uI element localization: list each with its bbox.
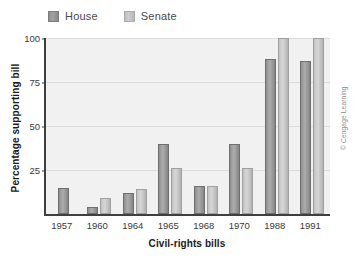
x-tick-label-1964: 1964 (122, 220, 143, 231)
plot-area: 255075100 (46, 38, 330, 214)
bar-house-1965 (158, 144, 169, 214)
y-axis-title: Percentage supporting bill (10, 33, 24, 223)
plot-frame: 255075100 (44, 38, 330, 216)
copyright-credit: © Cengage Learning (340, 86, 347, 150)
legend-swatch-senate-icon (124, 11, 135, 22)
bar-group-1991 (295, 38, 331, 214)
bar-senate-1988 (278, 38, 289, 214)
bar-house-1968 (194, 186, 205, 214)
y-tick-label-50: 50 (29, 121, 46, 132)
legend-label-house: House (65, 10, 98, 22)
bar-house-1960 (87, 207, 98, 214)
bar-senate-1964 (136, 189, 147, 214)
x-tick-label-1988: 1988 (264, 220, 285, 231)
x-tick-label-1968: 1968 (193, 220, 214, 231)
bar-house-1970 (229, 144, 240, 214)
bar-group-1968 (188, 38, 224, 214)
civil-rights-bills-bar-chart: House Senate Percentage supporting bill … (0, 0, 357, 258)
y-tick-label-25: 25 (29, 165, 46, 176)
legend-swatch-house-icon (48, 11, 59, 22)
bar-house-1988 (265, 59, 276, 214)
bar-senate-1965 (171, 168, 182, 214)
x-tick-label-1991: 1991 (300, 220, 321, 231)
bar-senate-1960 (100, 198, 111, 214)
legend-label-senate: Senate (141, 10, 177, 22)
bar-group-1964 (117, 38, 153, 214)
x-tick-label-1957: 1957 (51, 220, 72, 231)
bar-house-1957 (58, 188, 69, 214)
bar-house-1964 (123, 193, 134, 214)
bar-group-1965 (153, 38, 189, 214)
chart-legend: House Senate (48, 7, 177, 25)
bar-senate-1991 (313, 38, 324, 214)
bar-group-1970 (224, 38, 260, 214)
bar-group-1988 (259, 38, 295, 214)
bar-senate-1968 (207, 186, 218, 214)
x-tick-label-1965: 1965 (158, 220, 179, 231)
x-tick-label-1960: 1960 (87, 220, 108, 231)
bar-senate-1970 (242, 168, 253, 214)
legend-entry-senate: Senate (124, 10, 177, 22)
bar-group-1960 (82, 38, 118, 214)
legend-entry-house: House (48, 10, 98, 22)
bar-group-1957 (46, 38, 82, 214)
x-tick-label-1970: 1970 (229, 220, 250, 231)
y-tick-label-100: 100 (24, 33, 46, 44)
bar-house-1991 (300, 61, 311, 214)
x-axis-title: Civil-rights bills (44, 238, 330, 249)
y-tick-label-75: 75 (29, 77, 46, 88)
